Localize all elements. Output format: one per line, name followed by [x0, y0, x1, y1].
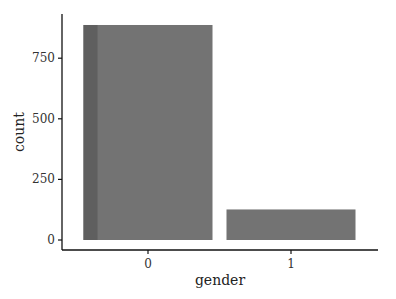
x-tick-label: 0 [144, 257, 152, 271]
bar-chart: 0250500750 01 gender count [0, 0, 396, 299]
y-axis-ticks: 0250500750 [32, 51, 62, 247]
y-tick-label: 0 [47, 233, 55, 247]
y-tick-label: 500 [32, 112, 55, 126]
y-axis-title: count [11, 112, 27, 152]
x-tick-label: 1 [287, 257, 295, 271]
y-tick-label: 750 [32, 51, 55, 65]
bar-shade [84, 25, 98, 240]
bar-1 [227, 209, 356, 240]
bars [84, 25, 356, 240]
x-axis-title: gender [195, 272, 246, 288]
bar-0 [84, 25, 213, 240]
y-tick-label: 250 [32, 172, 55, 186]
x-axis-ticks: 01 [144, 250, 295, 271]
